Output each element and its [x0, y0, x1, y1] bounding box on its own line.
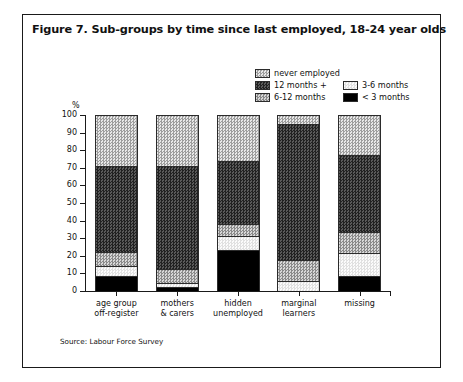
y-axis-tick-mark: [80, 133, 85, 134]
legend-swatch-icon: [255, 69, 270, 78]
y-axis-tick-mark: [80, 185, 85, 186]
bar-segment: [218, 251, 259, 291]
plot-area: [86, 115, 390, 291]
legend-label: 3-6 months: [362, 81, 408, 89]
y-axis-tick-label: 80: [55, 145, 77, 154]
legend-row: 6-12 months< 3 months: [255, 92, 430, 103]
y-axis-unit-label: %: [72, 101, 80, 110]
bar-segment: [157, 270, 198, 284]
y-axis-tick-mark: [80, 150, 85, 151]
stacked-bar: [277, 115, 320, 291]
x-axis-tick-mark: [360, 291, 361, 296]
stacked-bar: [95, 115, 138, 291]
x-axis-category-line: missing: [317, 299, 403, 309]
y-axis-tick-mark: [80, 256, 85, 257]
bar-segment: [278, 125, 319, 262]
bar-segment: [339, 254, 380, 277]
y-axis-tick-mark: [80, 203, 85, 204]
y-axis-tick-mark: [80, 221, 85, 222]
legend-swatch-icon: [343, 93, 358, 102]
x-axis-tick-mark: [177, 291, 178, 296]
x-axis-tick-mark: [116, 291, 117, 296]
bar-segment: [96, 253, 137, 267]
bar-segment: [96, 267, 137, 278]
bar-segment: [339, 277, 380, 291]
source-note: Source: Labour Force Survey: [60, 337, 163, 346]
y-axis-tick-label: 40: [55, 216, 77, 225]
legend-row: never employed: [255, 68, 430, 79]
bar-segment: [96, 277, 137, 291]
x-axis-tick-mark: [238, 291, 239, 296]
y-axis-tick-label: 90: [55, 128, 77, 137]
legend-label: 12 months +: [274, 81, 327, 89]
bar-segment: [339, 233, 380, 254]
y-axis-tick-label: 70: [55, 163, 77, 172]
legend-item-6-12-months: 6-12 months: [255, 93, 343, 102]
y-axis-tick-mark: [80, 238, 85, 239]
legend-item-never-employed: never employed: [255, 69, 343, 78]
y-axis-tick-mark: [80, 168, 85, 169]
legend-label: < 3 months: [362, 93, 410, 101]
legend-label: never employed: [274, 69, 340, 77]
legend-item-3-months: < 3 months: [343, 93, 423, 102]
y-axis-tick-label: 10: [55, 268, 77, 277]
bar-segment: [339, 116, 380, 156]
bar-segment: [96, 116, 137, 167]
legend-swatch-icon: [343, 81, 358, 90]
bar-segment: [157, 116, 198, 167]
legend-row: 12 months +3-6 months: [255, 80, 430, 91]
legend-swatch-icon: [255, 81, 270, 90]
y-axis-tick-label: 30: [55, 233, 77, 242]
stacked-bar: [217, 115, 260, 291]
y-axis-tick-mark: [80, 115, 85, 116]
chart-title: Figure 7. Sub-groups by time since last …: [32, 23, 446, 36]
bar-segment: [218, 116, 259, 162]
y-axis-tick-label: 50: [55, 198, 77, 207]
bar-segment: [218, 162, 259, 225]
x-axis-category-label: missing: [317, 299, 403, 309]
y-axis-tick-mark: [80, 291, 85, 292]
y-axis-tick-label: 60: [55, 180, 77, 189]
chart-legend: never employed12 months +3-6 months6-12 …: [255, 68, 430, 104]
bar-segment: [278, 282, 319, 291]
y-axis-tick-mark: [80, 273, 85, 274]
bar-segment: [96, 167, 137, 253]
y-axis-tick-label: 0: [55, 286, 77, 295]
x-axis-category-line: learners: [256, 309, 342, 319]
legend-label: 6-12 months: [274, 93, 325, 101]
stacked-bar: [338, 115, 381, 291]
legend-swatch-icon: [255, 93, 270, 102]
x-axis-tick-mark: [299, 291, 300, 296]
bar-segment: [278, 116, 319, 125]
bar-segment: [218, 225, 259, 237]
bar-segment: [157, 167, 198, 270]
y-axis-tick-label: 100: [55, 110, 77, 119]
bar-segment: [218, 237, 259, 251]
legend-item-12-months: 12 months +: [255, 81, 343, 90]
bar-segment: [339, 156, 380, 233]
bar-segment: [278, 261, 319, 282]
legend-item-3-6-months: 3-6 months: [343, 81, 423, 90]
y-axis-tick-label: 20: [55, 251, 77, 260]
stacked-bar: [156, 115, 199, 291]
x-axis-end-tick-mark: [390, 291, 391, 296]
